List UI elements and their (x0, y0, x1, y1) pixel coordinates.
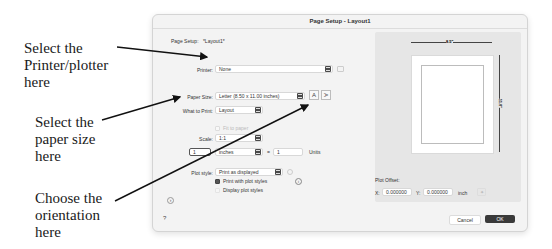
annotation-arrows (0, 0, 552, 249)
arrow-to-printer (117, 47, 207, 57)
arrow-to-paper-size (102, 97, 180, 120)
arrow-to-orientation (115, 105, 308, 201)
